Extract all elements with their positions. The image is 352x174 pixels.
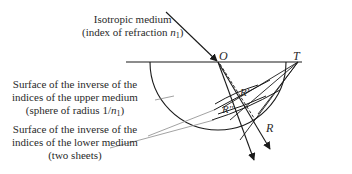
tangent-line-4 bbox=[258, 62, 298, 114]
upper-surface-label: Surface of the inverse of the indices of… bbox=[12, 78, 138, 117]
leader-upper-surface bbox=[155, 96, 174, 100]
point-r-double-prime-label: R'' bbox=[222, 103, 233, 115]
upper-surface-line2: indices of the upper medium bbox=[12, 91, 138, 104]
upper-surface-line3: (sphere of radius 1/n1) bbox=[12, 104, 138, 117]
upper-medium-line2: (index of refraction n1) bbox=[82, 26, 183, 39]
lower-surface-label: Surface of the inverse of the indices of… bbox=[12, 123, 138, 162]
upper-surface-line1: Surface of the inverse of the bbox=[12, 78, 138, 91]
point-r-label: R bbox=[266, 122, 273, 134]
point-t-label: T bbox=[293, 50, 300, 62]
upper-medium-label: Isotropic medium (index of refraction n1… bbox=[82, 13, 183, 39]
point-o-label: O bbox=[219, 50, 228, 62]
lower-surface-line1: Surface of the inverse of the bbox=[12, 123, 138, 136]
lower-surface-line2: indices of the lower medium bbox=[12, 136, 138, 149]
upper-medium-line1: Isotropic medium bbox=[82, 13, 183, 26]
lower-surface-line3: (two sheets) bbox=[12, 149, 138, 162]
point-r-prime-label: R' bbox=[240, 86, 249, 98]
